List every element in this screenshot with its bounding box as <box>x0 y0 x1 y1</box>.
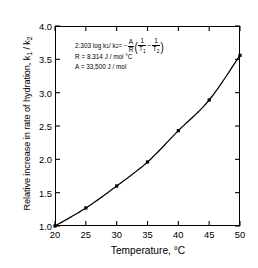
data-point-marker <box>115 184 118 187</box>
fraction-a-over-r: AR <box>128 39 134 54</box>
fraction-one-over-t2: 1T2 <box>152 38 160 55</box>
annotation-line-3: A = 33,500 J / mol <box>75 62 164 72</box>
annotation-equals-minus: = − <box>119 43 128 50</box>
annotation-slash: / k <box>109 43 116 50</box>
data-point-marker <box>146 160 149 163</box>
y-tick-label: 4.0 <box>39 21 52 32</box>
x-tick-label: 30 <box>111 229 121 240</box>
annotation-lead: 2.303 log k <box>75 43 106 50</box>
fraction-one-over-t1: 1T1 <box>138 38 146 55</box>
annotation-line-2: R = 8.314 J / mol °C <box>75 52 164 62</box>
x-tick-label: 45 <box>204 229 214 240</box>
data-point-marker <box>84 206 87 209</box>
y-tick-label: 3.0 <box>39 87 52 98</box>
fraction-denominator-t2: T2 <box>152 46 160 54</box>
data-markers <box>53 54 241 228</box>
data-point-marker <box>238 54 241 57</box>
inner-minus: − <box>147 43 151 50</box>
x-axis-title: Temperature, °C <box>55 245 241 256</box>
fraction-numerator-one-a: 1 <box>140 38 145 44</box>
annotation-line-1: 2.303 log k1 / k2 = −AR(1T1−1T2) <box>75 41 164 52</box>
data-line <box>55 55 240 226</box>
y-axis-title-sub1: 1 <box>26 52 33 56</box>
y-axis-title-main: Relative increase in rate of hydration, … <box>22 56 32 211</box>
data-point-marker <box>177 129 180 132</box>
y-axis-title-mid: / k <box>22 40 32 52</box>
y-tick-label: 2.5 <box>39 121 52 132</box>
t1-sub: 1 <box>143 49 146 54</box>
x-tick-label: 50 <box>235 229 245 240</box>
equation-annotation: 2.303 log k1 / k2 = −AR(1T1−1T2) R = 8.3… <box>75 41 164 72</box>
chart-figure: Relative increase in rate of hydration, … <box>0 0 258 268</box>
x-tick-label: 20 <box>50 229 60 240</box>
y-tick-label: 2.0 <box>39 154 52 165</box>
close-paren: ) <box>161 41 164 53</box>
fraction-denominator-t1: T1 <box>138 46 146 54</box>
t2-sub: 2 <box>157 49 160 54</box>
y-axis-title: Relative increase in rate of hydration, … <box>22 9 33 239</box>
y-axis-title-sub2: 2 <box>26 37 33 41</box>
data-point-marker <box>208 98 211 101</box>
fraction-numerator-a: A <box>128 39 133 45</box>
fraction-numerator-one-b: 1 <box>154 38 159 44</box>
y-tick-label: 1.5 <box>39 187 52 198</box>
x-tick-label: 35 <box>142 229 152 240</box>
x-tick-label: 40 <box>173 229 183 240</box>
x-tick-label: 25 <box>81 229 91 240</box>
plot-area: 1.01.52.02.53.03.54.0 20253035404550 2.3… <box>55 26 240 226</box>
data-point-marker <box>53 224 56 227</box>
open-paren: ( <box>135 41 138 53</box>
y-tick-label: 3.5 <box>39 54 52 65</box>
